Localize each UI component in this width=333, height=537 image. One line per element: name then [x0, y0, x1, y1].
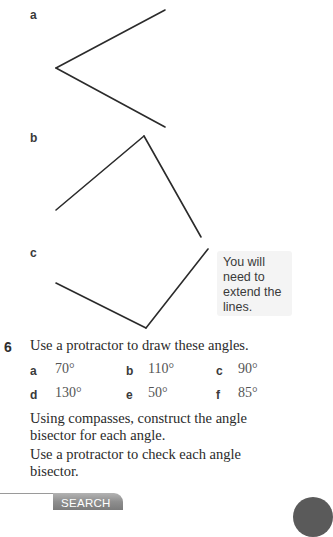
search-input[interactable] — [0, 493, 53, 510]
search-button[interactable]: SEARCH — [53, 493, 123, 510]
hint-note: You will need to extend the lines. — [217, 251, 292, 316]
angle-option-label-f: f — [216, 388, 220, 402]
angle-b — [56, 136, 201, 237]
angle-option-label-d: d — [30, 388, 37, 402]
angle-a — [56, 10, 165, 127]
angle-option-value-f: 85° — [238, 385, 258, 401]
search-bar: SEARCH — [0, 493, 123, 510]
check-instruction-line2: bisector. — [30, 463, 79, 480]
angle-c — [56, 249, 208, 328]
angle-option-label-c: c — [216, 364, 223, 378]
angle-option-value-e: 50° — [148, 385, 168, 401]
angle-option-label-e: e — [126, 388, 133, 402]
page-badge-circle — [293, 497, 333, 537]
angle-option-value-d: 130° — [55, 385, 82, 401]
question-number: 6 — [4, 339, 12, 355]
angle-option-value-c: 90° — [238, 361, 258, 377]
angle-option-label-b: b — [126, 364, 133, 378]
angle-option-label-a: a — [30, 364, 37, 378]
bisector-instruction-line2: bisector for each angle. — [30, 427, 165, 444]
bisector-instruction-line1: Using compasses, construct the angle — [30, 410, 247, 427]
question-instruction: Use a protractor to draw these angles. — [30, 337, 249, 354]
check-instruction-line1: Use a protractor to check each angle — [30, 446, 241, 463]
angle-option-value-b: 110° — [148, 361, 174, 377]
angle-option-value-a: 70° — [55, 361, 75, 377]
